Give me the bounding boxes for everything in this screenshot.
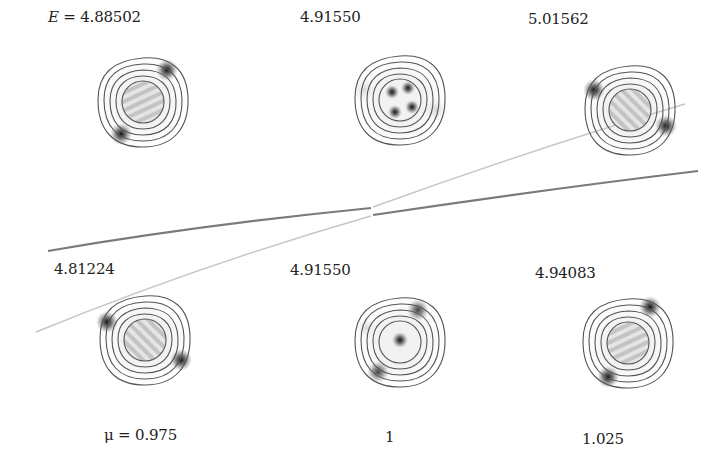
mu-label-2: 1 [385,428,394,446]
energy-value: 4.88502 [80,8,141,26]
lower-branch-left [48,208,371,251]
mode-pattern-bottom-3 [578,293,678,393]
energy-equals: = [59,8,81,26]
mode-pattern-bottom-1 [95,290,195,390]
mode-pattern-top-2 [350,50,450,150]
energy-label-top-2: 4.91550 [300,8,361,26]
mode-pattern-bottom-2 [350,292,450,392]
energy-label-bottom-2: 4.91550 [290,261,351,279]
lower-branch-right [373,171,698,215]
mode-pattern-top-3 [580,60,680,160]
energy-label-bottom-1: 4.81224 [54,260,115,278]
energy-label-bottom-3: 4.94083 [535,264,596,282]
mu-label-1: μ = 0.975 [104,426,177,444]
energy-label-top-1: E = 4.88502 [48,8,141,26]
mu-label-3: 1.025 [582,430,624,448]
energy-label-top-3: 5.01562 [528,10,589,28]
energy-symbol: E [48,8,59,26]
mode-pattern-top-1 [93,52,193,152]
